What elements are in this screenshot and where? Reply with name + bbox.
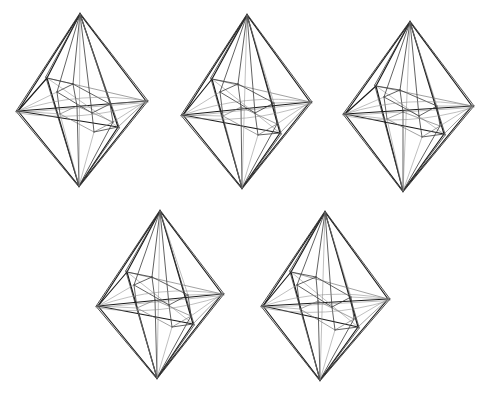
outer-lower-edge-ghost (242, 134, 281, 188)
equator-edge (18, 78, 47, 111)
outer-lower-edge-ghost (320, 299, 390, 381)
inner-top-edge (419, 106, 437, 116)
equator-edge (280, 102, 310, 133)
principal-axis (157, 211, 160, 378)
outer-lower-edge-ghost (96, 306, 157, 379)
outer-upper-edge (98, 211, 160, 306)
equator-edge (358, 299, 388, 327)
inner-bottom-edge (223, 107, 241, 116)
outer-lower-edge-ghost (261, 306, 320, 381)
apex-to-inner-bottom (77, 106, 79, 186)
inner-bottom-edge (387, 112, 403, 119)
apex-to-inner-bottom (157, 316, 191, 378)
outer-upper-edge (263, 212, 325, 306)
outer-lower-edge (18, 111, 79, 186)
apex-to-inner-top (247, 15, 274, 103)
bipyramid-bottom-right (261, 211, 390, 381)
outer-lower-edge-ghost (211, 78, 242, 188)
outer-lower-edge-ghost (46, 77, 79, 186)
inner-to-equator (291, 272, 316, 277)
outer-lower-edge-ghost (242, 102, 312, 189)
inner-bottom-edge (300, 301, 318, 309)
bipyramid-bottom-left (96, 210, 224, 379)
outer-lower-edge (79, 101, 146, 186)
apex-to-inner-bottom (242, 124, 277, 188)
inner-vertical-edge (332, 307, 335, 330)
outer-lower-edge-ghost (403, 106, 474, 192)
bipyramid-top-left (16, 13, 148, 187)
equator-diagonal-lr (183, 102, 310, 115)
inner-vertical-edge (400, 90, 403, 112)
outer-lower-edge-ghost (375, 85, 403, 191)
apex-to-inner-bottom (403, 137, 422, 191)
outer-upper-edge-ghost (247, 14, 312, 102)
outer-upper-edge (410, 22, 472, 106)
apex-to-inner-top (384, 22, 410, 97)
inner-top-edge (57, 92, 92, 113)
equator-edge (183, 79, 212, 115)
outer-upper-edge-ghost (126, 211, 160, 271)
equator-diagonal-bf (291, 272, 358, 327)
apex-to-inner-bottom (320, 319, 354, 380)
principal-axis (320, 212, 325, 380)
outer-lower-edge-ghost (157, 325, 194, 378)
equator-edge (183, 115, 280, 133)
outer-lower-edge-ghost (157, 294, 224, 379)
outer-upper-edge-ghost (96, 210, 160, 306)
equator-edge (98, 272, 127, 306)
apex-to-inner-bottom (318, 301, 320, 380)
bipyramid-top-middle (181, 14, 312, 189)
equator-diagonal-lr-ghost (181, 103, 312, 116)
apex-to-inner-top (220, 15, 247, 92)
outer-upper-edge-ghost (181, 14, 247, 115)
inner-top-edge (169, 295, 188, 305)
outer-lower-edge (98, 306, 157, 378)
outer-upper-edge-ghost (410, 21, 474, 106)
apex-to-inner-bottom (155, 300, 157, 378)
equator-edge (18, 111, 118, 127)
inner-to-equator (110, 101, 146, 104)
wireframe-canvas (0, 0, 492, 399)
equator-edge (118, 101, 146, 127)
outer-upper-edge-ghost (211, 15, 247, 78)
outer-upper-edge (345, 22, 410, 114)
figure-sheet (0, 0, 492, 399)
outer-upper-edge (183, 15, 247, 115)
equator-edge (444, 106, 472, 134)
inner-to-equator (212, 79, 238, 84)
inner-bottom-edge (241, 107, 277, 124)
equator-diagonal-lr-ghost (261, 300, 390, 307)
inner-top-edge (255, 103, 274, 113)
inner-to-equator (422, 134, 444, 137)
outer-upper-edge-ghost (290, 212, 325, 271)
outer-upper-edge-ghost (325, 211, 390, 299)
outer-upper-edge (325, 212, 388, 299)
equator-edge (193, 294, 222, 324)
outer-lower-edge-ghost (343, 114, 403, 192)
inner-bottom-edge (403, 112, 440, 126)
equator-edge (263, 272, 291, 306)
outer-upper-edge-ghost (160, 210, 224, 294)
outer-upper-edge-ghost (375, 22, 410, 85)
inner-vertical-edge (384, 97, 387, 119)
outer-lower-edge (403, 106, 472, 191)
inner-to-equator (127, 272, 152, 277)
equator-diagonal-lr-ghost (16, 102, 148, 112)
equator-edge (345, 114, 444, 134)
apex-to-inner-bottom (300, 309, 320, 380)
outer-lower-edge-ghost (320, 328, 359, 380)
outer-lower-edge-ghost (79, 128, 119, 186)
outer-lower-edge-ghost (403, 135, 445, 191)
apex-to-inner-bottom (157, 327, 172, 378)
inner-vertical-edge (57, 92, 60, 114)
equator-edge (98, 306, 193, 324)
apex-to-inner-top (134, 211, 160, 285)
inner-to-equator (335, 327, 358, 330)
apex-to-inner-bottom (242, 135, 258, 188)
outer-lower-edge (183, 115, 242, 188)
apex-to-inner-bottom (241, 107, 242, 188)
principal-axis (242, 15, 247, 188)
inner-to-equator (94, 127, 118, 132)
outer-upper-edge (247, 15, 310, 102)
inner-vertical-edge (255, 113, 258, 135)
